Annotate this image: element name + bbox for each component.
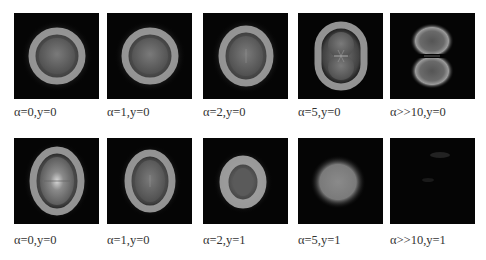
panel-label-r2-c2: α=1,y=0 <box>107 233 150 248</box>
panel-r1-c2 <box>107 13 192 99</box>
panel-r2-c4 <box>298 138 383 224</box>
panel-r2-c5 <box>390 138 475 224</box>
panel-r1-c5 <box>390 13 475 99</box>
intensity-pattern-image <box>14 13 99 99</box>
panel-label-r1-c5: α>>10,y=0 <box>390 105 446 120</box>
panel-label-r2-c3: α=2,y=1 <box>203 233 246 248</box>
panel-r2-c2 <box>107 138 192 224</box>
intensity-pattern-image <box>390 13 475 99</box>
panel-r1-c4 <box>298 13 383 99</box>
intensity-pattern-image <box>107 13 192 99</box>
panel-label-r2-c1: α=0,y=0 <box>14 233 57 248</box>
panel-r1-c3 <box>203 13 288 99</box>
intensity-pattern-image <box>390 138 475 224</box>
panel-r2-c3 <box>203 138 288 224</box>
panel-label-r1-c4: α=5,y=0 <box>298 105 341 120</box>
panel-label-r1-c2: α=1,y=0 <box>107 105 150 120</box>
panel-label-r2-c5: α>>10,y=1 <box>390 233 446 248</box>
panel-r2-c1 <box>14 138 99 224</box>
panel-label-r1-c1: α=0,y=0 <box>14 105 57 120</box>
intensity-pattern-image <box>203 138 288 224</box>
intensity-pattern-image <box>14 138 99 224</box>
panel-label-r1-c3: α=2,y=0 <box>203 105 246 120</box>
intensity-pattern-image <box>298 138 383 224</box>
panel-label-r2-c4: α=5,y=1 <box>298 233 341 248</box>
panel-r1-c1 <box>14 13 99 99</box>
intensity-pattern-image <box>107 138 192 224</box>
intensity-pattern-image <box>203 13 288 99</box>
intensity-pattern-image <box>298 13 383 99</box>
